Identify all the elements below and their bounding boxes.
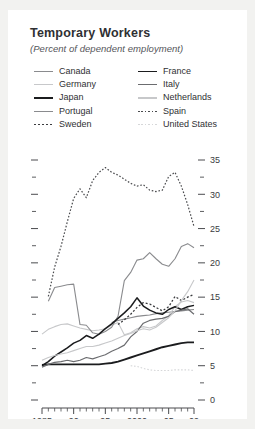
legend-label-sweden: Sweden (59, 120, 92, 129)
series-line-france (42, 298, 194, 366)
x-axis: 1985909520000509 (32, 408, 199, 419)
series-layer (42, 168, 194, 371)
chart-subtitle: (Percent of dependent employment) (30, 43, 183, 54)
legend-item-italy[interactable]: Italy (138, 78, 217, 91)
line-chart-svg: 05101520253035 1985909520000509 (8, 136, 247, 419)
legend-label-netherlands: Netherlands (163, 93, 212, 102)
chart-card: Temporary Workers (Percent of dependent … (8, 10, 247, 419)
legend-column-left: CanadaGermanyJapanPortugalSweden (34, 65, 96, 131)
legend-label-japan: Japan (59, 93, 84, 102)
legend-item-netherlands[interactable]: Netherlands (138, 91, 217, 104)
series-line-spain (48, 168, 194, 297)
y-axis-label: 25 (210, 224, 220, 234)
x-axis-label: 1985 (32, 416, 52, 419)
legend-item-sweden[interactable]: Sweden (34, 118, 96, 131)
legend-item-portugal[interactable]: Portugal (34, 105, 96, 118)
legend-label-france: France (163, 67, 191, 76)
y-axis-label: 20 (210, 258, 220, 268)
chart-legend: CanadaGermanyJapanPortugalSweden FranceI… (34, 65, 234, 131)
legend-label-united_states: United States (163, 120, 217, 129)
legend-column-right: FranceItalyNetherlandsSpainUnited States (138, 65, 217, 131)
y-axis-label: 0 (210, 395, 215, 405)
y-axis-label: 5 (210, 361, 215, 371)
legend-item-canada[interactable]: Canada (34, 65, 96, 78)
x-axis-label: 09 (189, 416, 199, 419)
series-line-portugal (48, 244, 194, 335)
y-axis-label: 10 (210, 327, 220, 337)
legend-item-germany[interactable]: Germany (34, 78, 96, 91)
legend-item-japan[interactable]: Japan (34, 91, 96, 104)
series-line-united-states (131, 366, 194, 371)
x-axis-label: 05 (164, 416, 174, 419)
y-axis-label: 35 (210, 155, 220, 165)
legend-label-italy: Italy (163, 80, 180, 89)
y-axis-label: 30 (210, 190, 220, 200)
legend-item-spain[interactable]: Spain (138, 105, 217, 118)
x-axis-label: 2000 (127, 416, 147, 419)
chart-plot-area: 05101520253035 1985909520000509 (8, 136, 247, 419)
y-axis-label: 15 (210, 292, 220, 302)
legend-label-portugal: Portugal (59, 107, 93, 116)
x-axis-label: 95 (100, 416, 110, 419)
legend-item-united_states[interactable]: United States (138, 118, 217, 131)
legend-label-germany: Germany (59, 80, 96, 89)
y-axis: 05101520253035 (31, 155, 220, 405)
legend-label-canada: Canada (59, 67, 91, 76)
x-axis-label: 90 (69, 416, 79, 419)
legend-label-spain: Spain (163, 107, 186, 116)
page-title: Temporary Workers (30, 26, 150, 40)
legend-item-france[interactable]: France (138, 65, 217, 78)
